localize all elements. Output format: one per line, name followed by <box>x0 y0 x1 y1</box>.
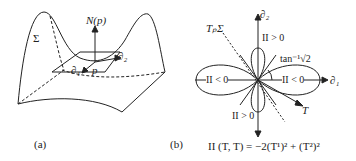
region-right-label: II < 0 <box>282 74 304 85</box>
region-bottom-label: II > 0 <box>232 110 254 121</box>
normal-label: N(p) <box>86 14 106 26</box>
saddle-back-hidden <box>18 16 64 104</box>
saddle-outline <box>18 12 165 112</box>
tangent2-label: ∂₂ <box>118 50 127 62</box>
tangent1-label: ∂₁ <box>71 64 80 76</box>
axis2-label: ∂₂ <box>260 8 269 20</box>
vector-label: T <box>302 104 308 116</box>
tangent-plane-label: TₚΣ <box>206 22 224 35</box>
axis1-label: ∂₁ <box>330 74 339 86</box>
formula: II (T, T) = −2(T¹)² + (T²)² <box>208 140 320 152</box>
region-top-label: II > 0 <box>262 32 284 43</box>
caption-a: (a) <box>34 138 46 150</box>
region-left-label: II < 0 <box>206 74 228 85</box>
caption-b: (b) <box>170 138 183 150</box>
angle-label: tan⁻¹√2 <box>280 53 311 64</box>
point-label: p <box>92 64 98 76</box>
surface-label: Σ <box>33 32 39 44</box>
